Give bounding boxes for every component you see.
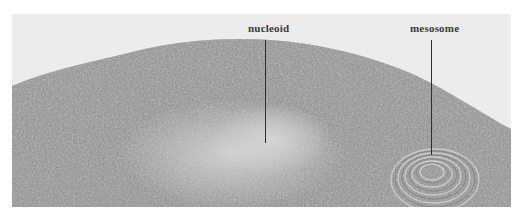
nucleoid-leader-line [265, 40, 266, 143]
mesosome-leader-line [431, 40, 432, 155]
nucleoid-label: nucleoid [248, 22, 289, 34]
micrograph-image [12, 14, 511, 207]
micrograph-texture [12, 14, 511, 207]
mesosome-label: mesosome [410, 22, 459, 34]
